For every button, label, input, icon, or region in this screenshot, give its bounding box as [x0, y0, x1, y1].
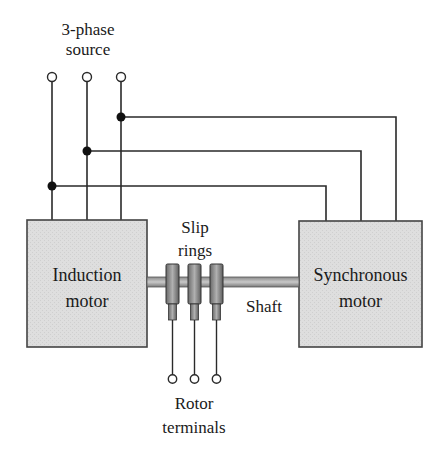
rotor-label-line1: Rotor: [144, 392, 244, 416]
induction-label-line2: motor: [27, 288, 147, 314]
terminal-circle-icon: [190, 375, 198, 383]
source-wires: [52, 82, 396, 221]
synchronous-motor-label: Synchronous motor: [299, 262, 422, 314]
induction-label-line1: Induction: [27, 262, 147, 288]
junction-dot-icon: [83, 147, 92, 156]
induction-motor-label: Induction motor: [27, 262, 147, 314]
terminal-circle-icon: [48, 73, 57, 82]
source-label: 3-phase source: [40, 20, 136, 60]
rotor-terminals: [168, 375, 220, 383]
source-label-line2: source: [40, 40, 136, 60]
shaft-label: Shaft: [238, 297, 290, 317]
junction-dot-icon: [48, 182, 57, 191]
rotor-terminals-label: Rotor terminals: [144, 392, 244, 440]
rotor-label-line2: terminals: [144, 416, 244, 440]
synchronous-label-line1: Synchronous: [299, 262, 422, 288]
slip-rings: [166, 264, 223, 320]
slip-rings-label: Slip rings: [160, 216, 230, 262]
source-label-line1: 3-phase: [40, 20, 136, 40]
shaft-label-text: Shaft: [246, 297, 282, 316]
terminal-circle-icon: [83, 73, 92, 82]
slip-label-line2: rings: [160, 239, 230, 262]
terminal-circle-icon: [212, 375, 220, 383]
terminal-circle-icon: [117, 73, 126, 82]
rotor-leads: [173, 320, 217, 375]
source-terminals: [48, 73, 126, 82]
slip-label-line1: Slip: [160, 216, 230, 239]
synchronous-label-line2: motor: [299, 288, 422, 314]
terminal-circle-icon: [168, 375, 176, 383]
junction-dot-icon: [117, 113, 126, 122]
